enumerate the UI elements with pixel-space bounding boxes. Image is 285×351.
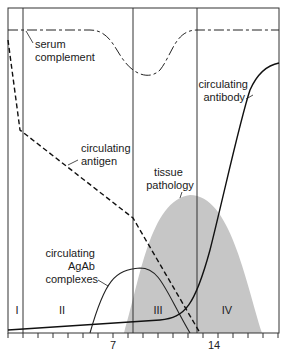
circulating-antibody-leader [246,95,253,99]
phase-label-IV: IV [222,304,233,316]
tick-label-7: 7 [110,339,116,351]
circulating-antigen-leader [68,160,78,165]
label-serum-complement: serum complement [35,38,95,63]
tissue-pathology-area [124,195,262,333]
phase-label-II: II [59,304,65,316]
label-agab-complexes: circulating AgAb complexes [45,247,98,285]
phase-label-III: III [153,304,162,316]
x-axis-ticks [8,333,278,338]
label-circulating-antigen: circulating antigen [81,142,134,167]
label-tissue-pathology: tissue pathology [146,166,194,191]
phase-label-I: I [15,304,18,316]
agab-complexes-leader [98,280,108,286]
immune-complex-diagram: 7 14 serum complement circulating antige… [0,0,285,351]
serum-complement-leader [26,31,33,43]
label-circulating-antibody: circulating antibody [198,78,251,103]
tissue-pathology-leader [180,192,182,198]
tick-label-14: 14 [208,339,220,351]
